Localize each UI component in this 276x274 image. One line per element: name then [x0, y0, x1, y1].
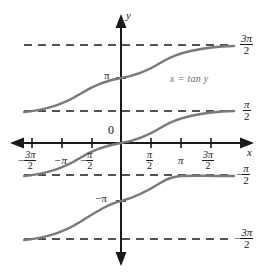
fraction-denominator: 2	[243, 111, 251, 122]
fraction-denominator: 2	[240, 45, 253, 56]
fraction-denominator: 2	[240, 239, 253, 250]
curve-branch-lower	[24, 176, 234, 240]
x-tick-label-3pi-over-2: 3π2	[202, 150, 214, 171]
asymptote-label-3pi-over-2: 3π2	[240, 33, 253, 56]
x-tick-label-pi-over-2: π2	[146, 150, 153, 171]
x-tick-label-neg-3pi-over-2: −3π2	[18, 150, 36, 171]
fraction-denominator: 2	[202, 161, 214, 171]
y-axis-label: y	[126, 10, 131, 21]
fraction-denominator: 2	[146, 161, 153, 171]
asymptote-label-neg-3pi-over-2: −3π2	[234, 227, 253, 250]
y-tick-label-pi: π	[104, 70, 110, 81]
asymptote-label-neg-pi-over-2: −π2	[236, 163, 250, 186]
y-tick-label-neg-pi: −π	[95, 193, 107, 204]
equation-annotation: x = tan y	[170, 74, 209, 84]
fraction-denominator: 2	[86, 161, 93, 171]
asymptote-label-pi-over-2: π2	[243, 99, 251, 122]
y-axis	[116, 14, 127, 266]
x-tick-label-neg-pi-over-2: −π2	[80, 150, 93, 171]
fraction-denominator: 2	[24, 161, 36, 171]
x-axis-label: x	[247, 147, 252, 158]
origin-label: 0	[108, 124, 114, 136]
tangent-inverse-graph-figure: x y 0 π −π −3π2 −π −π2 π2 π 3π2 3π2 π2 −…	[0, 0, 276, 274]
x-tick-label-neg-pi: −π	[54, 155, 67, 166]
x-axis	[10, 138, 254, 149]
x-tick-label-pi: π	[178, 155, 184, 166]
fraction-denominator: 2	[242, 175, 250, 186]
